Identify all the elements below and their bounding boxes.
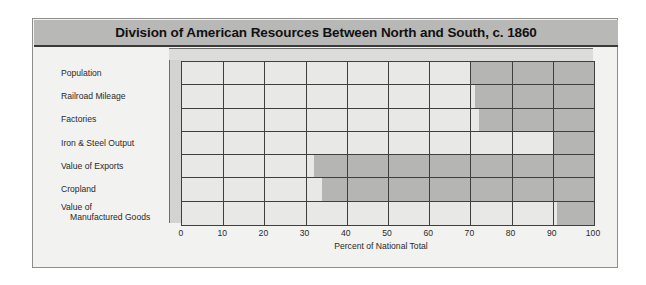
x-axis-tick-label: 0 <box>179 228 184 238</box>
page-title: Division of American Resources Between N… <box>115 25 537 40</box>
grid-line-vertical <box>470 62 471 225</box>
plot-region <box>169 48 607 253</box>
plot-grid <box>181 61 595 226</box>
x-axis-tick-label: 30 <box>300 228 310 238</box>
grid-line-vertical <box>306 62 307 225</box>
bar-segment-north <box>553 132 594 154</box>
grid-line-vertical <box>347 62 348 225</box>
chart-body: PopulationRailroad MileageFactoriesIron … <box>33 48 617 267</box>
bar-segment-north <box>470 62 594 84</box>
bar-segment-north <box>557 202 594 225</box>
chart-title-band: Division of American Resources Between N… <box>34 20 618 47</box>
bar-segment-north <box>479 109 594 131</box>
grid-line-vertical <box>223 62 224 225</box>
x-axis-tick-label: 80 <box>506 228 516 238</box>
bar-segment-north <box>475 85 594 107</box>
x-axis-tick-label: 20 <box>259 228 269 238</box>
x-axis-tick-label: 40 <box>341 228 351 238</box>
plot-top-face <box>169 48 593 62</box>
grid-line-vertical <box>388 62 389 225</box>
category-label-line1: Value of <box>61 202 92 212</box>
figure-frame: Division of American Resources Between N… <box>32 18 618 268</box>
x-axis-tick-label: 90 <box>547 228 557 238</box>
grid-line-vertical <box>512 62 513 225</box>
category-label-column: PopulationRailroad MileageFactoriesIron … <box>33 48 183 253</box>
x-axis-title: Percent of National Total <box>169 241 593 251</box>
grid-line-vertical <box>553 62 554 225</box>
x-axis-tick-label: 60 <box>423 228 433 238</box>
x-axis-tick-label: 50 <box>382 228 392 238</box>
grid-line-vertical <box>264 62 265 225</box>
x-axis-ticks: 0102030405060708090100 <box>169 228 607 242</box>
x-axis-tick-label: 70 <box>465 228 475 238</box>
grid-line-vertical <box>429 62 430 225</box>
x-axis-tick-label: 100 <box>586 228 600 238</box>
x-axis-tick-label: 10 <box>217 228 227 238</box>
